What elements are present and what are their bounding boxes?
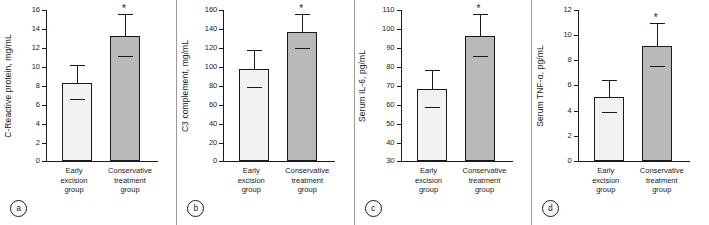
panel-tag-a: a (10, 200, 27, 217)
errorbar-cap-bottom-a-1 (70, 99, 85, 100)
panel-b: C3 complement, mg/mL 160 140 120 100 80 … (177, 0, 354, 225)
errorbar-cap-top-d-1 (602, 80, 617, 81)
y-tick-a-5: 6 (46, 105, 47, 106)
x-label-b-early-excision: Early excision group (223, 166, 279, 195)
y-tick-a-3: 10 (46, 67, 47, 68)
y-tick-b-7: 20 (223, 143, 224, 144)
x-axis-line-a (46, 161, 158, 162)
y-tick-d-2: 8 (578, 60, 579, 61)
x-label-d-early-excision: Early excision group (578, 166, 634, 195)
x-axis-labels-a: Early excision group Conservative treatm… (46, 166, 158, 195)
bar-b-conservative-treatment (287, 32, 317, 161)
panel-a: C-Reactive protein, mg/mL 16 14 12 10 8 … (0, 0, 177, 225)
x-axis-labels-b: Early excision group Conservative treatm… (223, 166, 335, 195)
y-tick-a-0: 16 (46, 10, 47, 11)
x-axis-labels-c: Early excision group Conservative treatm… (401, 166, 513, 195)
errorbar-d-conservative-treatment (657, 24, 658, 46)
x-label-a-conservative: Conservative treatment group (102, 166, 158, 195)
y-tick-b-0: 160 (223, 10, 224, 11)
y-tick-d-6: 0 (578, 161, 579, 162)
x-label-b-conservative: Conservative treatment group (279, 166, 335, 195)
y-axis-label-a: C-Reactive protein, mg/mL (2, 10, 14, 162)
errorbar-cap-top-c-1 (425, 70, 440, 71)
y-tick-c-1: 100 (401, 29, 402, 30)
plot-area-b: 160 140 120 100 80 60 40 20 (223, 10, 335, 162)
plot-area-a: 16 14 12 10 8 6 4 2 0 (46, 10, 158, 162)
y-tick-d-3: 6 (578, 85, 579, 86)
panel-tag-c: c (365, 200, 382, 217)
errorbar-cap-top-c-2 (473, 14, 488, 15)
y-tick-c-5: 60 (401, 105, 402, 106)
errorbar-cap-top-b-1 (247, 50, 262, 51)
significance-marker-c: * (477, 4, 481, 14)
y-axis-label-d: Serum TNF-α, pg/mL (534, 10, 546, 162)
y-axis-line-d (578, 10, 579, 162)
panel-c: Serum IL-6, pg/mL 110 100 90 80 70 60 (355, 0, 532, 225)
errorbar-c-conservative-treatment (480, 15, 481, 36)
errorbar-c-early-excision (432, 71, 433, 89)
x-label-d-conservative: Conservative treatment group (634, 166, 690, 195)
y-tick-c-7: 40 (401, 143, 402, 144)
bar-a-conservative-treatment (110, 36, 140, 161)
y-tick-a-1: 14 (46, 29, 47, 30)
y-axis-label-b: C3 complement, mg/mL (179, 10, 191, 162)
y-tick-d-4: 4 (578, 111, 579, 112)
bar-a-early-excision (62, 83, 92, 161)
plot-area-d: 12 10 8 6 4 2 0 (578, 10, 690, 162)
y-tick-c-4: 70 (401, 86, 402, 87)
errorbar-cap-bottom-b-1 (247, 87, 262, 88)
y-axis-label-c: Serum IL-6, pg/mL (357, 10, 369, 162)
significance-marker-b: * (299, 4, 303, 14)
errorbar-cap-top-b-2 (295, 14, 310, 15)
panel-tag-b: b (187, 200, 204, 217)
x-axis-line-d (578, 161, 690, 162)
y-tick-a-8: 0 (46, 161, 47, 162)
y-tick-b-2: 120 (223, 48, 224, 49)
errorbar-cap-bottom-d-1 (602, 112, 617, 113)
y-tick-a-4: 8 (46, 86, 47, 87)
errorbar-cap-bottom-a-2 (118, 56, 133, 57)
bar-d-conservative-treatment (642, 46, 672, 161)
x-label-c-early-excision: Early excision group (401, 166, 457, 195)
y-tick-b-4: 80 (223, 86, 224, 87)
y-tick-c-8: 30 (401, 161, 402, 162)
errorbar-cap-bottom-d-2 (650, 66, 665, 67)
x-axis-line-c (401, 161, 513, 162)
errorbar-cap-top-a-2 (118, 14, 133, 15)
bar-c-early-excision (417, 89, 447, 161)
errorbar-b-early-excision (254, 51, 255, 69)
errorbar-a-early-excision (77, 66, 78, 83)
y-tick-a-2: 12 (46, 48, 47, 49)
x-axis-labels-d: Early excision group Conservative treatm… (578, 166, 690, 195)
panel-tag-d: d (542, 200, 559, 217)
bar-b-early-excision (239, 69, 269, 161)
y-tick-c-2: 90 (401, 48, 402, 49)
y-tick-b-1: 140 (223, 29, 224, 30)
y-tick-b-6: 40 (223, 124, 224, 125)
y-tick-d-1: 10 (578, 35, 579, 36)
y-tick-b-3: 100 (223, 67, 224, 68)
panel-d: Serum TNF-α, pg/mL 12 10 8 6 4 2 (532, 0, 709, 225)
errorbar-cap-top-d-2 (650, 23, 665, 24)
x-label-c-conservative: Conservative treatment group (457, 166, 513, 195)
y-tick-a-7: 2 (46, 143, 47, 144)
errorbar-cap-bottom-c-1 (425, 107, 440, 108)
x-label-a-early-excision: Early excision group (46, 166, 102, 195)
y-tick-a-6: 4 (46, 124, 47, 125)
y-tick-c-0: 110 (401, 10, 402, 11)
plot-area-c: 110 100 90 80 70 60 50 40 (401, 10, 513, 162)
errorbar-d-early-excision (609, 81, 610, 97)
significance-marker-a: * (122, 4, 126, 14)
significance-marker-d: * (654, 13, 658, 23)
y-tick-b-8: 0 (223, 161, 224, 162)
y-tick-c-3: 80 (401, 67, 402, 68)
x-axis-line-b (223, 161, 335, 162)
y-tick-d-0: 12 (578, 10, 579, 11)
y-tick-d-5: 2 (578, 136, 579, 137)
y-tick-b-5: 60 (223, 105, 224, 106)
errorbar-b-conservative-treatment (302, 15, 303, 32)
errorbar-a-conservative-treatment (125, 15, 126, 36)
y-tick-c-6: 50 (401, 124, 402, 125)
bar-c-conservative-treatment (465, 36, 495, 161)
errorbar-cap-bottom-c-2 (473, 56, 488, 57)
